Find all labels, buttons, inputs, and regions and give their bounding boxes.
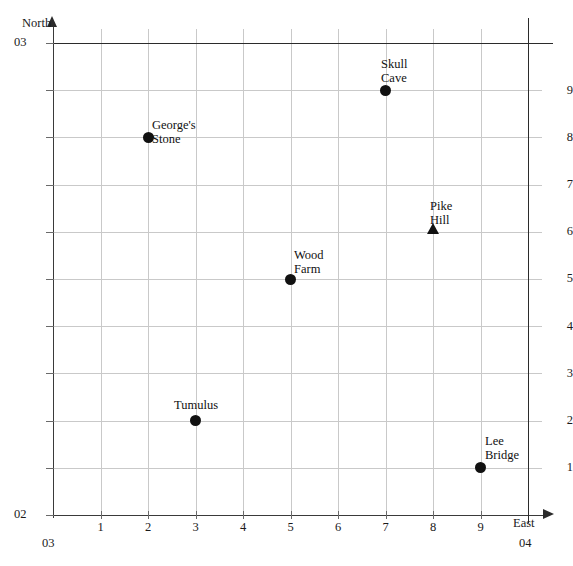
x-axis-tick (433, 511, 434, 519)
x-axis-tick (196, 511, 197, 519)
gridline-horizontal (53, 279, 542, 280)
y-tick-label-5: 5 (533, 272, 573, 285)
gridline-vertical (433, 29, 434, 515)
map-label-lee-bridge: Lee Bridge (485, 435, 519, 462)
gridline-vertical (386, 29, 387, 515)
y-axis-tick (46, 373, 54, 374)
gridline-horizontal (53, 185, 542, 186)
x-tick-label-9: 9 (466, 521, 496, 534)
x-tick-label-7: 7 (371, 521, 401, 534)
map-marker-skull-cave[interactable] (380, 85, 391, 96)
gridline-vertical (196, 29, 197, 515)
x-axis-tick (101, 511, 102, 519)
gridline-horizontal (53, 137, 542, 138)
grid-reference-map: 9 8 7 6 5 4 3 2 1 1 2 3 4 5 6 7 8 9 Nort… (0, 0, 573, 566)
y-axis-tick (46, 232, 54, 233)
x-axis-tick (481, 511, 482, 519)
y-axis-top-reference-label: 03 (14, 36, 27, 49)
y-tick-label-7: 7 (533, 178, 573, 191)
x-tick-label-5: 5 (276, 521, 306, 534)
map-label-skull-cave: Skull Cave (381, 58, 407, 85)
x-axis-tick (148, 511, 149, 519)
gridline-horizontal (53, 90, 542, 91)
x-axis-origin-reference-label: 03 (42, 537, 55, 550)
y-tick-label-1: 1 (533, 461, 573, 474)
y-axis-tick (46, 421, 54, 422)
y-axis-origin-reference-label: 02 (14, 508, 27, 521)
y-axis-tick (46, 43, 54, 44)
y-axis-tick (46, 185, 54, 186)
grid-boundary-right (528, 18, 529, 523)
x-axis-far-reference-label: 04 (519, 537, 532, 550)
map-label-wood-farm: Wood Farm (294, 249, 324, 276)
gridline-vertical (338, 29, 339, 515)
x-tick-label-2: 2 (133, 521, 163, 534)
x-tick-label-3: 3 (181, 521, 211, 534)
gridline-horizontal (53, 326, 542, 327)
x-axis-tick (243, 511, 244, 519)
north-axis-line (53, 26, 54, 518)
y-axis-tick (46, 279, 54, 280)
gridline-horizontal (53, 373, 542, 374)
east-axis-caption: East (513, 517, 535, 530)
x-tick-label-4: 4 (228, 521, 258, 534)
gridline-vertical (243, 29, 244, 515)
map-label-georges-stone: George's Stone (152, 119, 196, 146)
map-label-pike-hill: Pike Hill (430, 200, 452, 227)
y-axis-tick (46, 468, 54, 469)
y-tick-label-3: 3 (533, 367, 573, 380)
y-tick-label-2: 2 (533, 414, 573, 427)
east-axis-line (50, 515, 546, 516)
map-label-tumulus: Tumulus (160, 399, 232, 413)
x-axis-tick (291, 511, 292, 519)
grid-boundary-top (53, 43, 553, 44)
y-tick-label-4: 4 (533, 320, 573, 333)
x-tick-label-8: 8 (418, 521, 448, 534)
gridline-vertical (481, 29, 482, 515)
x-tick-label-1: 1 (86, 521, 116, 534)
y-tick-label-6: 6 (533, 225, 573, 238)
y-axis-tick (46, 515, 54, 516)
y-tick-label-9: 9 (533, 84, 573, 97)
x-axis-tick (386, 511, 387, 519)
y-axis-tick (46, 326, 54, 327)
x-tick-label-6: 6 (323, 521, 353, 534)
gridline-horizontal (53, 468, 542, 469)
gridline-vertical (101, 29, 102, 515)
gridline-horizontal (53, 421, 542, 422)
y-axis-tick (46, 137, 54, 138)
gridline-vertical (291, 29, 292, 515)
y-axis-tick (46, 90, 54, 91)
east-arrow-icon (543, 509, 554, 519)
y-tick-label-8: 8 (533, 131, 573, 144)
x-axis-tick (338, 511, 339, 519)
gridline-horizontal (53, 232, 542, 233)
north-axis-caption: North (22, 17, 51, 30)
gridline-vertical (148, 29, 149, 515)
